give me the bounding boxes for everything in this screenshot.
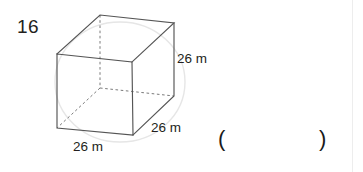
dimension-label-width: 26 m xyxy=(73,140,103,154)
right-face-back-edges xyxy=(133,23,174,135)
dimension-label-height: 26 m xyxy=(177,52,207,66)
front-face-outline xyxy=(57,54,133,135)
hidden-edge-to-back-bottom-right xyxy=(100,88,174,96)
hidden-edge-to-front-bottom-left xyxy=(57,88,100,128)
worksheet-page: 16 26 m 26 m 26 m ( ) xyxy=(0,0,363,172)
answer-paren-close: ) xyxy=(319,128,326,150)
answer-paren-open: ( xyxy=(218,128,225,150)
cube-figure xyxy=(0,0,363,172)
problem-number: 16 xyxy=(17,17,39,36)
dimension-label-depth: 26 m xyxy=(151,121,181,135)
